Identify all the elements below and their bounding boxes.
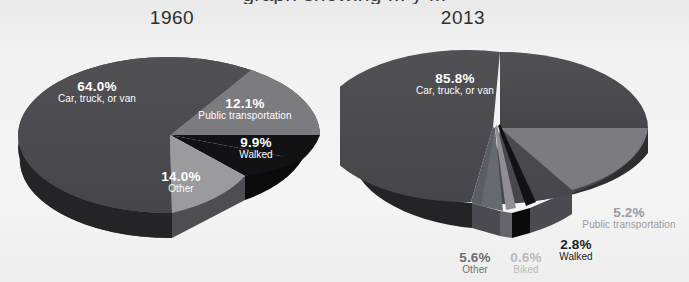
slice-top-car-upper-2013 (500, 52, 648, 128)
label-other-1960: 14.0% Other (161, 170, 200, 194)
label-car-1960-pct: 64.0% (58, 80, 136, 94)
label-car-2013-name: Car, truck, or van (416, 86, 494, 96)
slice-side-biked-2013 (500, 211, 512, 238)
chart-year-1960: 1960 (102, 7, 242, 29)
label-other-1960-name: Other (161, 184, 200, 194)
label-public-2013-pct: 5.2% (582, 206, 675, 220)
label-public-2013: 5.2% Public transportation (582, 206, 675, 230)
infographic-canvas: graph showing ... y ... 1960 2013 (0, 0, 689, 282)
label-walked-2013-pct: 2.8% (559, 238, 593, 252)
label-walked-2013-name: Walked (559, 252, 593, 262)
label-walked-1960: 9.9% Walked (239, 136, 273, 160)
figure-title-clipped: graph showing ... y ... (0, 0, 689, 4)
label-biked-2013-pct: 0.6% (510, 251, 542, 265)
label-walked-2013: 2.8% Walked (559, 238, 593, 262)
label-biked-2013: 0.6% Biked (510, 251, 542, 275)
label-other-2013: 5.6% Other (459, 251, 491, 275)
label-public-1960: 12.1% Public transportation (198, 97, 291, 121)
label-other-2013-pct: 5.6% (459, 251, 491, 265)
pie-1960-svg (2, 0, 332, 250)
chart-year-2013: 2013 (393, 7, 533, 29)
label-other-1960-pct: 14.0% (161, 170, 200, 184)
label-car-1960-name: Car, truck, or van (58, 94, 136, 104)
pie-chart-1960 (2, 0, 332, 250)
label-public-1960-name: Public transportation (198, 111, 291, 121)
label-car-1960: 64.0% Car, truck, or van (58, 80, 136, 104)
label-public-2013-name: Public transportation (582, 220, 675, 230)
label-car-2013-pct: 85.8% (416, 72, 494, 86)
label-other-2013-name: Other (459, 265, 491, 275)
figure-title-text: graph showing ... y ... (0, 0, 689, 4)
label-walked-1960-name: Walked (239, 150, 273, 160)
label-car-2013: 85.8% Car, truck, or van (416, 72, 494, 96)
slice-side-walked-2013 (512, 208, 530, 238)
label-walked-1960-pct: 9.9% (239, 136, 273, 150)
label-public-1960-pct: 12.1% (198, 97, 291, 111)
label-biked-2013-name: Biked (510, 265, 542, 275)
